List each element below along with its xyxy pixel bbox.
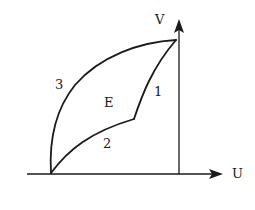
u-axis-label: U (232, 166, 243, 181)
region-e-label: E (104, 95, 114, 110)
curve-1-label: 1 (154, 84, 162, 99)
uv-region-diagram: V U 3 E 1 2 (0, 0, 255, 210)
curve-2 (51, 119, 134, 173)
curve-2-label: 2 (103, 136, 111, 151)
curve-3-label: 3 (55, 77, 63, 92)
v-axis-label: V (154, 12, 165, 27)
curve-1 (134, 40, 176, 119)
